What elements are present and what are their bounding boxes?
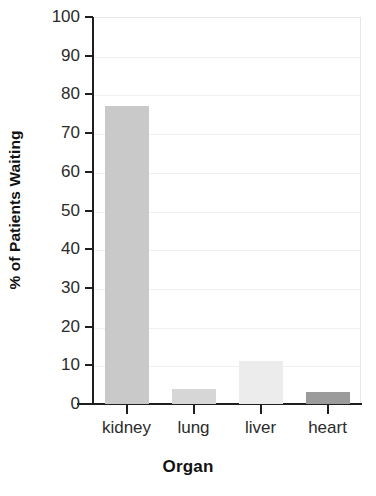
y-tick-mark [85, 287, 93, 289]
y-tick-label: 20 [34, 318, 80, 335]
x-tick-mark [126, 405, 128, 414]
y-tick-mark [85, 55, 93, 57]
y-tick-label: 50 [34, 202, 80, 219]
bar [306, 392, 350, 404]
x-tick-label: heart [283, 418, 373, 438]
y-tick-label: 90 [34, 47, 80, 64]
y-tick-label: 10 [34, 356, 80, 373]
y-tick-label-group: 0102030405060708090100 [28, 0, 80, 496]
bar [239, 361, 283, 404]
gridline [93, 95, 360, 96]
y-tick-mark [85, 403, 93, 405]
y-tick-mark [85, 248, 93, 250]
bar-chart-figure: % of Patients Waiting 010203040506070809… [0, 0, 376, 496]
y-tick-label: 30 [34, 279, 80, 296]
y-axis-title: % of Patients Waiting [6, 80, 30, 340]
x-tick-mark [193, 405, 195, 414]
x-tick-mark [260, 405, 262, 414]
y-tick-label: 60 [34, 163, 80, 180]
x-axis-title: Organ [0, 457, 376, 477]
y-tick-mark [85, 364, 93, 366]
y-tick-mark [85, 171, 93, 173]
x-tick-mark [327, 405, 329, 414]
y-tick-label: 0 [34, 395, 80, 412]
y-tick-label: 40 [34, 240, 80, 257]
bar [105, 106, 149, 404]
y-tick-mark [85, 93, 93, 95]
y-tick-label: 80 [34, 85, 80, 102]
y-tick-label: 70 [34, 124, 80, 141]
bar [172, 389, 216, 404]
y-tick-mark [85, 210, 93, 212]
y-tick-label: 100 [34, 8, 80, 25]
y-tick-mark [85, 326, 93, 328]
y-tick-mark [85, 16, 93, 18]
y-tick-mark [85, 132, 93, 134]
gridline [93, 57, 360, 58]
